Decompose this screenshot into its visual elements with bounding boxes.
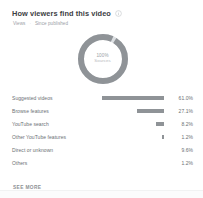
traffic-source-bar-cell xyxy=(94,135,169,138)
traffic-source-label: Others xyxy=(12,160,94,166)
subtitle-separator: · xyxy=(29,21,31,26)
card-header: How viewers find this video xyxy=(12,9,193,18)
traffic-source-bar xyxy=(102,96,164,99)
traffic-source-label: Other YouTube features xyxy=(12,134,94,140)
traffic-source-bar xyxy=(162,135,164,138)
bottom-edge xyxy=(0,190,203,198)
traffic-source-bar-cell xyxy=(94,122,169,125)
info-icon[interactable] xyxy=(115,10,122,17)
traffic-source-value: 8.2% xyxy=(169,121,193,127)
traffic-source-label: Suggested videos xyxy=(12,95,94,101)
traffic-source-bar-cell xyxy=(94,148,169,151)
traffic-source-bar xyxy=(156,122,164,125)
traffic-source-bar-cell xyxy=(94,96,169,99)
subtitle-period: Since published xyxy=(35,21,68,26)
table-row[interactable]: YouTube search8.2% xyxy=(12,118,193,131)
see-more-button[interactable]: SEE MORE xyxy=(13,185,41,190)
traffic-source-value: 9.6% xyxy=(169,147,193,153)
card-subtitle: Views · Since published xyxy=(12,21,193,26)
traffic-source-bar xyxy=(137,109,164,112)
traffic-source-value: 27.1% xyxy=(169,108,193,114)
traffic-source-label: YouTube search xyxy=(12,121,94,127)
table-row[interactable]: Browse features27.1% xyxy=(12,105,193,118)
traffic-source-bar-cell xyxy=(94,109,169,112)
traffic-source-bar-cell xyxy=(94,161,169,164)
table-row[interactable]: Other YouTube features1.2% xyxy=(12,131,193,144)
subtitle-metric: Views xyxy=(13,21,25,26)
traffic-source-label: Direct or unknown xyxy=(12,147,94,153)
traffic-source-list: Suggested videos61.0%Browse features27.1… xyxy=(12,92,193,170)
traffic-source-value: 1.2% xyxy=(169,160,193,166)
traffic-source-label: Browse features xyxy=(12,108,94,114)
traffic-source-value: 61.0% xyxy=(169,95,193,101)
table-row[interactable]: Direct or unknown9.6% xyxy=(12,144,193,157)
traffic-source-value: 1.2% xyxy=(169,134,193,140)
table-row[interactable]: Suggested videos61.0% xyxy=(12,92,193,105)
page-title: How viewers find this video xyxy=(12,9,111,18)
donut-graphic: 100% Sources xyxy=(75,31,131,87)
how-viewers-find-this-video-card: How viewers find this video Views · Sinc… xyxy=(0,0,203,198)
donut-chart: 100% Sources xyxy=(12,30,193,88)
table-row[interactable]: Others1.2% xyxy=(12,157,193,170)
